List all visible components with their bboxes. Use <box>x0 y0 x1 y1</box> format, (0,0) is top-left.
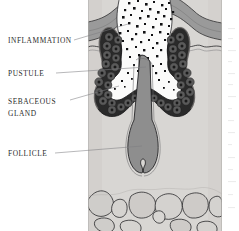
label-sebaceous: Sebaceous <box>8 97 56 106</box>
label-inflammation: Inflammation <box>8 36 72 45</box>
label-gland: gland <box>8 109 37 118</box>
illustration-panel <box>88 0 222 231</box>
acne-cross-section-figure: Inflammation Pustule Sebaceous gland Fol… <box>0 0 239 231</box>
label-follicle: Follicle <box>8 149 47 158</box>
label-pustule: Pustule <box>8 69 44 78</box>
